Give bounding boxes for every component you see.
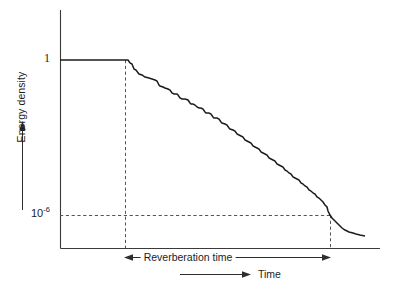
- reverberation-span-arrow-head-left: [124, 254, 133, 261]
- y-tick-exponent: -6: [43, 205, 50, 214]
- reverberation-time-label: Reverberation time: [141, 252, 236, 263]
- energy-density-decay-curve: [60, 60, 365, 236]
- y-tick-label-ten-to-minus-six: 10-6: [31, 208, 50, 219]
- reverberation-decay-figure: 1 10-6 Energy density Reverberation time…: [0, 0, 394, 295]
- time-arrow-head: [242, 271, 251, 277]
- reverberation-span-arrow-head-right: [322, 254, 331, 261]
- y-axis-label: Energy density: [11, 59, 31, 155]
- time-axis-label: Time: [255, 269, 284, 280]
- y-tick-base: 10: [31, 207, 43, 219]
- y-axis-label-text: Energy density: [15, 72, 27, 143]
- y-tick-label-one: 1: [44, 52, 50, 64]
